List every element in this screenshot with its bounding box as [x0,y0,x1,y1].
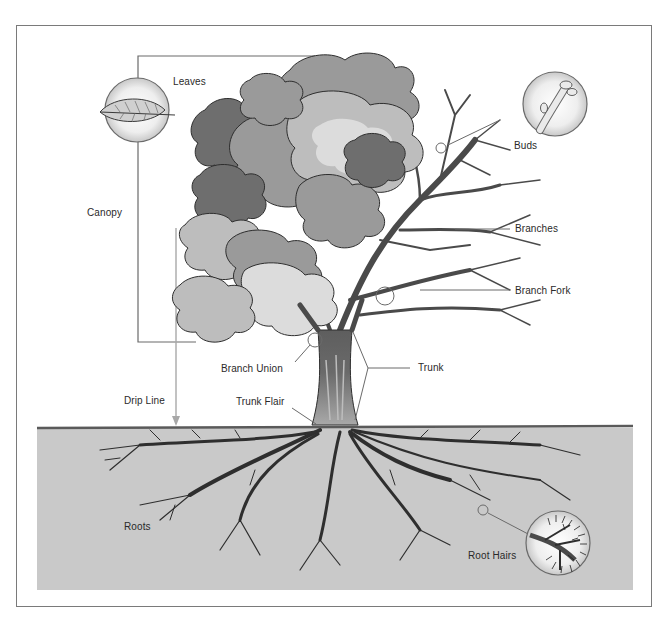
diagram-canvas [0,0,665,622]
label-roots: Roots [124,521,151,532]
tree-anatomy-diagram: Leaves Canopy Buds Branches Branch Fork … [0,0,665,622]
label-branches: Branches [515,223,558,234]
label-drip-line: Drip Line [124,395,165,406]
label-trunk-flair: Trunk Flair [236,396,285,407]
label-canopy: Canopy [87,207,122,218]
label-root-hairs: Root Hairs [468,550,516,561]
root-hairs-magnifier-icon [526,511,590,575]
label-leaves: Leaves [173,76,206,87]
canopy-dark-right [344,133,405,187]
label-branch-fork: Branch Fork [515,285,571,296]
label-buds: Buds [514,140,537,151]
canopy-top-left [240,73,303,125]
label-trunk: Trunk [418,362,444,373]
label-branch-union: Branch Union [221,363,283,374]
buds-magnifier-icon [523,72,587,136]
